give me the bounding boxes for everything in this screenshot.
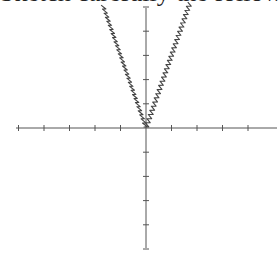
graph-plot <box>0 0 279 262</box>
axes <box>16 7 277 249</box>
